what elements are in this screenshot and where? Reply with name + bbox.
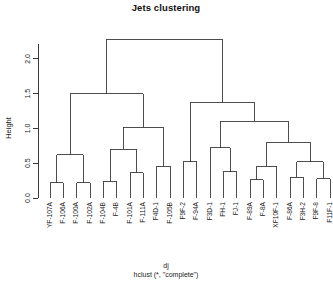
leaf-label: F-100A [72, 201, 79, 223]
y-tick-label: 0.5 [24, 158, 31, 168]
leaf-label: F-8A [259, 201, 266, 216]
leaf-label: F-89A [246, 201, 253, 220]
leaf-label: F4D-1 [152, 202, 159, 221]
leaf-label: F9F-2 [179, 202, 186, 220]
chart-title: Jets clustering [132, 2, 201, 13]
chart-subtitle: hclust (*, "complete") [134, 271, 199, 279]
leaf-label: F-105B [166, 201, 173, 223]
y-tick-label: 1.5 [24, 89, 31, 99]
leaf-label: FJ-1 [232, 202, 239, 216]
leaf-label: F11F-1 [326, 202, 333, 223]
leaf-label: FH-1 [219, 202, 226, 217]
leaf-label: F-86A [286, 201, 293, 220]
leaf-label: F3H-2 [299, 202, 306, 221]
leaf-label: F-102A [86, 201, 93, 223]
leaf-label: F-4B [112, 201, 119, 216]
leaf-label: F-104B [99, 201, 106, 223]
y-tick-label: 2.0 [24, 54, 31, 64]
leaf-label: F3D-1 [206, 202, 213, 221]
y-tick-label: 0.0 [24, 193, 31, 203]
leaf-label: XF10F-1 [272, 202, 279, 228]
dendrogram-chart: Jets clustering Height 0.00.51.01.52.0 Y… [0, 0, 333, 292]
leaf-label: F-101A [126, 201, 133, 223]
chart-background [0, 0, 333, 292]
leaf-label: F9F-8 [312, 202, 319, 220]
x-axis-label: dj [163, 262, 169, 270]
leaf-label: F-94A [192, 201, 199, 220]
leaf-label: F-106A [59, 201, 66, 223]
leaf-label: F-111A [139, 201, 146, 222]
y-axis-label: Height [4, 116, 13, 139]
leaf-label: YF-107A [46, 201, 53, 228]
y-tick-label: 1.0 [24, 123, 31, 133]
